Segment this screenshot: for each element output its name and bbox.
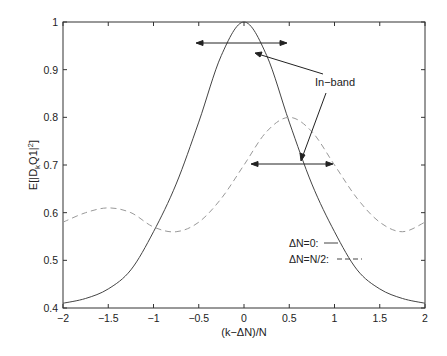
y-tick-label: 0.8 — [43, 111, 58, 123]
x-tick-label: −1 — [148, 312, 160, 324]
legend-label-dashed: ΔN=N/2: — [289, 253, 329, 265]
y-tick-label: 0.4 — [43, 302, 58, 314]
y-tick-label: 0.5 — [43, 254, 58, 266]
in-band-annotation — [196, 41, 333, 167]
axis-ticks: −2−1.5−1−0.500.511.520.40.50.60.70.80.91 — [43, 16, 428, 324]
x-tick-label: −0.5 — [188, 312, 209, 324]
x-tick-label: 1.5 — [372, 312, 387, 324]
y-tick-label: 0.9 — [43, 64, 58, 76]
x-axis-label: (k−ΔN)/N — [221, 326, 267, 338]
plot-area — [63, 22, 425, 308]
x-tick-label: 2 — [422, 312, 428, 324]
series-dashed-line — [63, 117, 425, 232]
series-lines — [63, 22, 425, 303]
y-tick-label: 0.7 — [43, 159, 58, 171]
chart: −2−1.5−1−0.500.511.520.40.50.60.70.80.91… — [0, 0, 447, 356]
y-tick-label: 0.6 — [43, 207, 58, 219]
in-band-label: In−band — [315, 76, 355, 88]
series-solid-line — [63, 22, 425, 303]
y-tick-label: 1 — [52, 16, 58, 28]
x-tick-label: 0.5 — [282, 312, 297, 324]
x-tick-label: 1 — [332, 312, 338, 324]
x-tick-label: −2 — [57, 312, 69, 324]
legend-label-solid: ΔN=0: — [289, 237, 319, 249]
y-axis-label: E[|DkQ1|2] — [26, 140, 42, 190]
x-tick-label: −1.5 — [98, 312, 119, 324]
x-tick-label: 0 — [241, 312, 247, 324]
